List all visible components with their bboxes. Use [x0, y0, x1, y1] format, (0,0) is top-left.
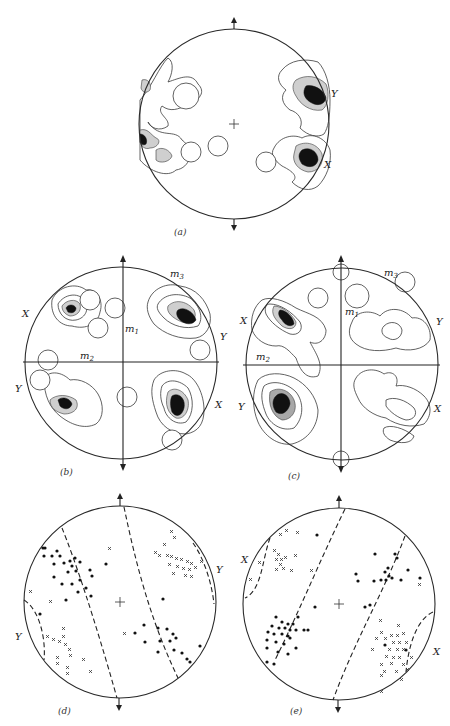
label-y-left-b: Y — [15, 383, 23, 394]
label-x-a: X — [323, 159, 332, 170]
small-circle-x-left-e — [245, 538, 270, 598]
contour-regions-b — [30, 285, 210, 450]
label-x-left-b: X — [21, 308, 30, 319]
panel-e: X X (e) — [240, 495, 441, 716]
caption-c: (c) — [288, 471, 301, 481]
label-y-left-d: Y — [15, 631, 23, 642]
small-circle-y-left-d — [24, 600, 44, 660]
panel-b: m1 m2 m3 X Y Y X (b) — [15, 255, 228, 477]
small-circle-x-right-e — [406, 612, 433, 672]
label-x-right-e: X — [432, 646, 441, 657]
panel-c: m1 m2 m3 X Y Y X (c) — [238, 255, 444, 481]
label-m2-c: m2 — [256, 351, 270, 364]
panel-d: Y Y (d) — [15, 493, 224, 716]
small-circle-y-right-d — [193, 543, 214, 604]
label-y-right-c: Y — [436, 316, 444, 327]
caption-a: (a) — [174, 227, 187, 237]
label-m3-b: m3 — [170, 268, 184, 281]
label-x-right-c: X — [433, 403, 442, 414]
label-y-right-b: Y — [220, 331, 228, 342]
label-x-left-e: X — [240, 554, 249, 565]
label-x-left-c: X — [239, 315, 248, 326]
label-y-a: Y — [331, 88, 339, 99]
label-m1-b: m1 — [125, 323, 139, 336]
great-circle-right-e — [333, 536, 405, 700]
label-y-left-c: Y — [238, 401, 246, 412]
panel-a: Y X (a) — [139, 17, 339, 237]
label-y-right-d: Y — [216, 564, 224, 575]
caption-b: (b) — [60, 467, 73, 477]
label-x-right-b: X — [214, 399, 223, 410]
label-m2-b: m2 — [80, 350, 94, 363]
stereonet-figure: Y X (a) — [0, 0, 450, 726]
caption-e: (e) — [290, 706, 303, 716]
caption-d: (d) — [58, 706, 71, 716]
cross-points-d — [29, 530, 203, 675]
label-m3-c: m3 — [384, 267, 398, 280]
